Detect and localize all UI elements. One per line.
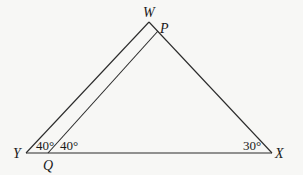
segment-YW: [26, 22, 149, 153]
segment-WX: [149, 22, 272, 153]
vertex-label-Y: Y: [13, 146, 23, 161]
vertex-label-P: P: [159, 21, 169, 36]
angle-label-Q: 40°: [60, 138, 78, 153]
vertex-label-Q: Q: [43, 158, 53, 173]
angle-label-Y: 40°: [36, 138, 54, 153]
vertex-label-W: W: [143, 5, 156, 20]
triangle-diagram: W P Y Q X 40° 40° 30°: [0, 0, 303, 175]
segment-QP: [48, 31, 158, 153]
angle-label-X: 30°: [243, 138, 261, 153]
vertex-label-X: X: [274, 146, 284, 161]
